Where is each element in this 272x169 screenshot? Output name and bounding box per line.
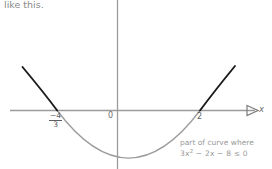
curve-annotation: part of curve where 3x2 − 2x − 8 ≤ 0 — [180, 139, 254, 158]
annotation-expression-prefix: 3x — [180, 149, 190, 158]
parabola-inequality-figure: like this. 0 x 2 −4 3 part of curve wher… — [0, 0, 272, 169]
x-tick-label-negative-four-thirds: −4 3 — [49, 112, 62, 129]
fraction-denominator: 3 — [49, 121, 62, 129]
fraction: −4 3 — [49, 112, 62, 128]
origin-label: 0 — [108, 111, 113, 120]
body-text: like this. — [4, 0, 44, 11]
curve-segment-between-roots — [57, 111, 200, 159]
annotation-line-2: 3x2 − 2x − 8 ≤ 0 — [180, 150, 254, 159]
curve-segment-right-branch — [200, 66, 235, 111]
x-axis-label: x — [259, 105, 264, 115]
annotation-line-1: part of curve where — [180, 138, 254, 147]
annotation-expression-rest: − 2x − 8 ≤ 0 — [193, 149, 248, 158]
x-tick-label-2: 2 — [197, 112, 202, 121]
curve-segment-left-branch — [23, 67, 58, 111]
